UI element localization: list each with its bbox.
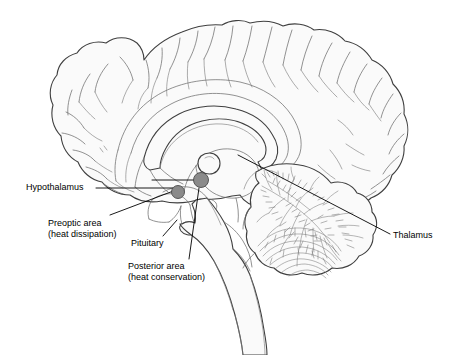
label-posterior-line-2: (heat conservation) (128, 272, 205, 283)
label-preoptic-line-1: Preoptic area (48, 218, 117, 229)
posterior-hypothalamus-marker (194, 173, 209, 188)
label-posterior-line-1: Posterior area (128, 261, 205, 272)
brain-illustration: .o{fill:#fafafa;stroke:#3f3f3f;stroke-wi… (0, 0, 454, 355)
label-preoptic-line-2: (heat dissipation) (48, 229, 117, 240)
preoptic-area-marker (172, 186, 185, 199)
label-pituitary: Pituitary (131, 238, 164, 249)
label-hypothalamus: Hypothalamus (26, 182, 84, 193)
label-pituitary-line-1: Pituitary (131, 238, 164, 249)
label-preoptic-area: Preoptic area (heat dissipation) (48, 218, 117, 239)
brain-diagram-figure: .o{fill:#fafafa;stroke:#3f3f3f;stroke-wi… (0, 0, 454, 355)
label-posterior-area: Posterior area (heat conservation) (128, 261, 205, 282)
label-thalamus: Thalamus (393, 230, 433, 241)
label-thalamus-line-1: Thalamus (393, 230, 433, 241)
label-hypothalamus-line-1: Hypothalamus (26, 182, 84, 193)
